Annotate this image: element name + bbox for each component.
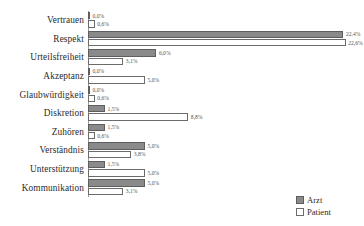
legend-swatch-arzt [296,196,304,204]
bar-value-label: 6,0% [159,50,171,56]
bar-group-patient: 3,1% [88,188,138,195]
chart-legend: Arzt Patient [296,194,362,218]
bar-group-arzt: 1,5% [88,124,119,131]
bar-arzt [88,49,156,56]
bar-patient [88,95,95,102]
bar-arzt [88,105,105,112]
bar-value-label: 8,8% [191,114,203,120]
bar-patient [88,188,123,195]
bar-arzt [88,161,105,168]
bar-value-label: 22,4% [346,31,360,37]
chart-row: Respekt22,4%22,6% [0,30,364,49]
bar-group-arzt: 0,0% [88,68,104,75]
bar-group-arzt: 1,5% [88,161,119,168]
bar-patient [88,169,145,176]
category-label: Vertrauen [0,15,88,25]
bar-value-label: 3,1% [126,58,138,64]
chart-row: Akzeptanz0,0%5,0% [0,67,364,86]
chart-row: Unterstützung1,5%5,0% [0,160,364,179]
category-label: Glaubwürdigkeit [0,90,88,100]
bar-arzt [88,68,90,75]
bar-arzt [88,142,145,149]
row-bars: 1,5%0,6% [88,123,364,142]
bar-group-arzt: 1,5% [88,105,119,112]
chart-row: Verständnis5,0%3,8% [0,141,364,160]
bar-chart: Vertrauen0,0%0,6%Respekt22,4%22,6%Urteil… [0,0,364,226]
bar-group-arzt: 5,0% [88,142,159,149]
bar-arzt [88,179,145,186]
bar-group-arzt: 22,4% [88,31,360,38]
legend-item-patient: Patient [296,206,362,218]
row-bars: 0,0%5,0% [88,67,364,86]
chart-row: Glaubwürdigkeit0,0%0,6% [0,85,364,104]
bar-group-patient: 3,1% [88,58,138,65]
bar-value-label: 1,5% [108,161,120,167]
bar-value-label: 0,0% [93,13,105,19]
bar-group-patient: 5,0% [88,169,159,176]
bar-group-patient: 0,6% [88,20,109,27]
category-label: Respekt [0,34,88,44]
bar-value-label: 0,6% [97,133,109,139]
row-bars: 5,0%3,8% [88,141,364,160]
bar-patient [88,20,95,27]
legend-swatch-patient [296,208,304,216]
bar-patient [88,132,95,139]
bar-value-label: 1,5% [108,106,120,112]
bar-value-label: 3,1% [126,188,138,194]
bar-arzt [88,12,90,19]
bar-value-label: 3,8% [134,151,146,157]
category-label: Urteilsfreiheit [0,52,88,62]
bar-group-patient: 0,6% [88,95,109,102]
bar-value-label: 0,6% [97,21,109,27]
legend-item-arzt: Arzt [296,194,362,206]
bar-value-label: 5,0% [148,180,160,186]
bar-value-label: 5,0% [148,143,160,149]
row-bars: 1,5%8,8% [88,104,364,123]
legend-label-patient: Patient [307,208,331,217]
bar-group-patient: 3,8% [88,151,145,158]
bar-value-label: 5,0% [148,77,160,83]
bar-value-label: 5,0% [148,170,160,176]
bar-value-label: 22,6% [348,40,362,46]
category-label: Akzeptanz [0,71,88,81]
bar-patient [88,58,123,65]
bar-arzt [88,31,343,38]
bar-group-patient: 8,8% [88,113,203,120]
chart-row: Urteilsfreiheit6,0%3,1% [0,48,364,67]
bar-group-patient: 5,0% [88,76,159,83]
category-label: Diskretion [0,108,88,118]
bar-group-arzt: 5,0% [88,179,159,186]
row-bars: 6,0%3,1% [88,48,364,67]
bar-arzt [88,86,90,93]
row-bars: 22,4%22,6% [88,30,364,49]
bar-value-label: 0,0% [93,68,105,74]
bar-patient [88,151,131,158]
row-bars: 1,5%5,0% [88,160,364,179]
bar-patient [88,76,145,83]
bar-group-patient: 0,6% [88,132,109,139]
category-label: Zuhören [0,127,88,137]
bar-value-label: 0,6% [97,95,109,101]
bar-patient [88,39,346,46]
bar-group-patient: 22,6% [88,39,363,46]
bar-patient [88,113,188,120]
category-label: Unterstützung [0,164,88,174]
chart-row: Vertrauen0,0%0,6% [0,11,364,30]
bar-group-arzt: 0,0% [88,86,104,93]
bar-group-arzt: 6,0% [88,49,171,56]
row-bars: 0,0%0,6% [88,85,364,104]
row-bars: 0,0%0,6% [88,11,364,30]
chart-row: Diskretion1,5%8,8% [0,104,364,123]
bar-arzt [88,124,105,131]
bar-group-arzt: 0,0% [88,12,104,19]
category-label: Kommunikation [0,183,88,193]
chart-plot-area: Vertrauen0,0%0,6%Respekt22,4%22,6%Urteil… [0,11,364,197]
category-label: Verständnis [0,145,88,155]
bar-value-label: 1,5% [108,124,120,130]
legend-label-arzt: Arzt [307,196,322,205]
bar-value-label: 0,0% [93,87,105,93]
chart-row: Zuhören1,5%0,6% [0,123,364,142]
